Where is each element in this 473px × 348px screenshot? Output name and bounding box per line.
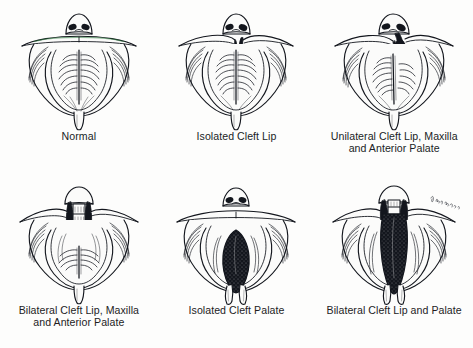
panel-caption-bilateral-cleft-lip-and-palate: Bilateral Cleft Lip and Palate [327, 304, 462, 316]
artist-signature [431, 196, 459, 209]
panel-unilateral-cleft-lip-maxilla-anterior-palate: Unilateral Cleft Lip, Maxilla and Anteri… [315, 0, 473, 174]
panel-caption-bilateral-cleft-lip-maxilla: Bilateral Cleft Lip, Maxilla and Anterio… [19, 304, 139, 329]
panel-isolated-cleft-lip: Isolated Cleft Lip [158, 0, 316, 174]
anatomy-drawing-unilateral-cleft [319, 0, 469, 133]
panel-bilateral-cleft-lip-and-palate: Bilateral Cleft Lip and Palate [315, 174, 473, 348]
panel-caption-isolated-cleft-lip: Isolated Cleft Lip [197, 130, 277, 142]
panel-caption-unilateral-cleft: Unilateral Cleft Lip, Maxilla and Anteri… [331, 130, 458, 155]
panel-caption-normal: Normal [62, 130, 96, 142]
anatomy-drawing-normal [4, 0, 154, 133]
panel-bilateral-cleft-lip-maxilla-anterior-palate: Bilateral Cleft Lip, Maxilla and Anterio… [0, 174, 158, 348]
anatomy-drawing-bilateral-cleft-lip-maxilla [4, 174, 154, 307]
anatomy-drawing-isolated-cleft-lip [161, 0, 311, 133]
cleft-classification-figure: Normal [0, 0, 473, 348]
anatomy-drawing-bilateral-cleft-lip-and-palate [319, 174, 469, 307]
anatomy-drawing-isolated-cleft-palate [161, 174, 311, 307]
panel-normal: Normal [0, 0, 158, 174]
panel-caption-isolated-cleft-palate: Isolated Cleft Palate [189, 304, 285, 316]
panel-isolated-cleft-palate: Isolated Cleft Palate [158, 174, 316, 348]
panel-grid: Normal [0, 0, 473, 348]
